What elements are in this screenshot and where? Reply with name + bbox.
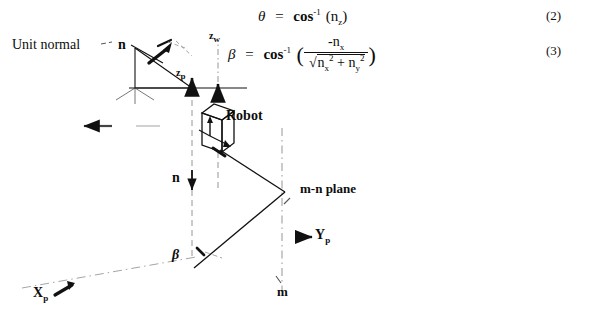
equation-beta-numerator-base: -n (328, 34, 340, 49)
label-m-axis: m (277, 285, 288, 298)
unit-normal-vector-icon (149, 40, 192, 63)
label-n-top: n (118, 38, 126, 52)
label-z-platform-subscript: p (180, 71, 185, 81)
equation-beta-paren-close: ) (368, 42, 375, 67)
radical-icon: √ (307, 55, 317, 70)
facet-support-legs (116, 88, 154, 104)
xp-ground-line (22, 257, 196, 288)
equation-beta-den-t2-sub: y (355, 63, 360, 73)
label-n-mid: n (172, 171, 180, 185)
label-x-platform: Xp (33, 286, 48, 303)
label-x-platform-base: X (33, 285, 43, 300)
unit-normal-leader (101, 42, 112, 44)
equation-beta-numerator: -nx (304, 35, 369, 52)
equation-beta: β = cos-1 (-nx√nx2 + ny2) (228, 36, 376, 74)
equation-beta-fraction-bar (304, 52, 369, 53)
label-x-platform-subscript: p (43, 293, 48, 303)
equation-theta-relation: = (275, 8, 283, 24)
equation-beta-relation: = (245, 46, 253, 62)
equation-theta-exponent: -1 (313, 7, 321, 17)
m-axis-line (276, 128, 282, 292)
label-robot: Robot (226, 109, 263, 123)
label-beta: β (172, 248, 179, 262)
label-y-platform-base: Y (315, 227, 325, 242)
equation-beta-lhs: β (228, 46, 235, 62)
equation-number-3: (3) (546, 44, 561, 57)
equation-beta-den-t2-pow: 2 (360, 54, 365, 64)
equation-number-2: (2) (546, 9, 561, 22)
equation-theta-lhs: θ (258, 8, 265, 24)
m-axis-tick (284, 198, 290, 204)
figure-page: θ = cos-1 (nz) (2) β = cos-1 (-nx√nx2 + … (0, 0, 595, 324)
label-z-world: zw (209, 31, 220, 44)
equation-beta-den-t1-sub: x (325, 63, 330, 73)
xp-axis-arrow (55, 281, 75, 295)
label-z-platform: zp (176, 68, 185, 81)
label-z-world-subscript: w (213, 34, 220, 44)
equation-beta-exponent: -1 (283, 45, 291, 55)
equation-theta-arg-close: ) (342, 8, 347, 24)
beta-angle-indicator (197, 248, 222, 258)
equation-beta-paren-open: ( (295, 42, 304, 67)
label-unit-normal: Unit normal (12, 38, 80, 52)
equation-beta-numerator-subscript: x (340, 42, 345, 52)
label-mn-plane: m-n plane (300, 182, 356, 195)
label-y-platform-subscript: p (325, 235, 330, 245)
equation-beta-fraction: -nx√nx2 + ny2 (304, 35, 369, 73)
equation-beta-den-t1: n (318, 55, 325, 70)
equation-theta-function: cos (293, 8, 313, 24)
equation-beta-den-t1-pow: 2 (329, 54, 334, 64)
equation-beta-denominator: √nx2 + ny2 (304, 54, 369, 73)
equation-theta: θ = cos-1 (nz) (258, 8, 347, 27)
label-y-platform: Yp (315, 228, 330, 245)
equation-beta-function: cos (263, 46, 283, 62)
mn-plane-outline (194, 150, 285, 268)
